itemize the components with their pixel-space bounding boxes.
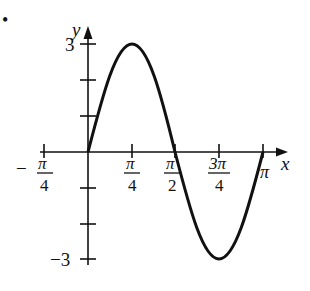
svg-text:3π: 3π xyxy=(208,154,227,173)
x-tick-label-3pi-over-4: 3π 4 xyxy=(208,154,230,195)
svg-text:π: π xyxy=(126,154,135,173)
x-tick-label-pi: π xyxy=(260,162,270,182)
svg-text:4: 4 xyxy=(40,176,49,195)
svg-text:4: 4 xyxy=(128,176,137,195)
svg-text:π: π xyxy=(38,154,47,173)
svg-text:−: − xyxy=(16,158,27,179)
x-tick-label-pi-over-4: π 4 xyxy=(124,154,140,195)
svg-text:4: 4 xyxy=(215,176,224,195)
y-tick-label-neg3: −3 xyxy=(50,249,70,270)
x-ticks xyxy=(44,144,263,158)
sine-graph: • y x 3 −3 − π 4 π 4 π xyxy=(0,0,310,291)
x-tick-label-neg-pi-over-4: − π 4 xyxy=(16,154,53,195)
y-tick-label-3: 3 xyxy=(65,34,75,55)
x-axis-label: x xyxy=(280,153,290,174)
svg-text:2: 2 xyxy=(168,176,177,195)
svg-text:π: π xyxy=(166,154,175,173)
y-axis-arrow-icon xyxy=(84,26,93,39)
bullet-mark: • xyxy=(2,10,8,30)
